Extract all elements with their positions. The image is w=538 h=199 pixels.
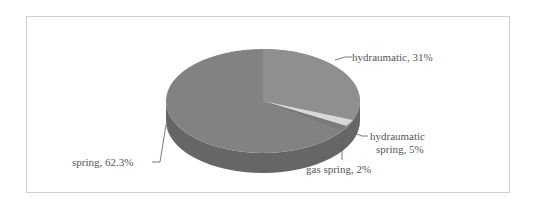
label-hydraumatic-spring-line2: spring, 5%: [376, 143, 424, 155]
label-hydraumatic: hydraumatic, 31%: [352, 51, 433, 63]
leader-hydraumatic: [335, 57, 352, 60]
leader-spring: [152, 125, 166, 162]
label-spring: spring, 62.3%: [72, 156, 133, 168]
pie-chart: [0, 0, 538, 199]
label-gas-spring: gas spring, 2%: [306, 163, 371, 175]
label-hydraumatic-spring-line1: hydraumatic: [370, 130, 425, 142]
